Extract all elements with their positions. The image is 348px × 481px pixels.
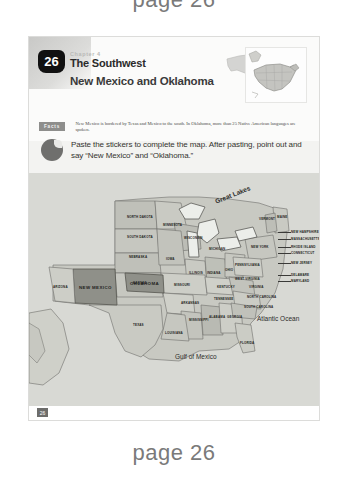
state-label: TENNESSEE: [214, 297, 234, 301]
worksheet-page-card: 26 Chapter 4 The Southwest New Mexico an…: [28, 36, 320, 421]
state-label-leader: NEW JERSEY: [291, 261, 312, 265]
caption-top: page 26: [0, 0, 348, 13]
state-label: NORTH DAKOTA: [127, 215, 153, 219]
state-label: ARIZONA: [53, 285, 68, 289]
state-label: GEORGIA: [227, 315, 242, 319]
state-label: MICHIGAN: [209, 247, 225, 251]
water-label-gulf-of-mexico: Gulf of Mexico: [175, 353, 217, 360]
state-label: INDIANA: [207, 271, 221, 275]
state-label-leader: RHODE ISLAND: [291, 245, 316, 249]
fact-row: Facts New Mexico is bordered by Texas an…: [39, 121, 315, 139]
state-label: FLORIDA: [240, 341, 254, 345]
state-label: MINNESOTA: [163, 223, 182, 227]
state-label: PENNSYLVANIA: [235, 263, 260, 267]
state-label: ILLINOIS: [189, 271, 203, 275]
us-locator-map: [245, 47, 307, 103]
water-label-atlantic-ocean: Atlantic Ocean: [257, 315, 299, 322]
page-title: New Mexico and Oklahoma: [70, 75, 220, 88]
state-label-oklahoma: OKLAHOMA: [130, 281, 159, 286]
state-label: NORTH CAROLINA: [247, 295, 276, 299]
state-label-new-mexico: NEW MEXICO: [79, 285, 112, 290]
sticker-icon: [41, 139, 63, 161]
footer-page-number: 26: [37, 408, 48, 417]
fact-text: New Mexico is bordered by Texas and Mexi…: [75, 121, 303, 133]
state-label: MISSISSIPPI: [189, 318, 209, 322]
state-label: SOUTH DAKOTA: [127, 235, 153, 239]
us-map: Great Lakes Atlantic Ocean Gulf of Mexic…: [29, 173, 320, 406]
state-label-leader: MARYLAND: [291, 279, 309, 283]
chapter-number-badge: 26: [39, 51, 64, 72]
state-label: ALABAMA: [209, 315, 225, 319]
state-label-leader: MASSACHUSETTS: [291, 237, 320, 241]
state-label: TEXAS: [133, 323, 144, 327]
state-label: NEBRASKA: [129, 255, 147, 259]
state-label: SOUTH CAROLINA: [244, 305, 273, 309]
state-label: MAINE: [277, 215, 287, 219]
state-label: WEST VIRGINIA: [235, 277, 260, 281]
chapter-title: The Southwest: [70, 57, 146, 69]
state-label-leader: CONNECTICUT: [291, 251, 314, 255]
state-label: WISCONSIN: [184, 236, 203, 240]
instruction-text: Paste the stickers to complete the map. …: [71, 139, 311, 161]
state-label-leader: NEW HAMPSHIRE: [291, 230, 319, 234]
state-label: NEW YORK: [251, 245, 269, 249]
state-label: IOWA: [166, 257, 175, 261]
state-label: MISSOURI: [174, 283, 190, 287]
state-label: VERMONT: [259, 217, 275, 221]
state-label: KENTUCKY: [217, 285, 235, 289]
state-label: OHIO: [225, 268, 233, 272]
state-label: VIRGINIA: [249, 285, 264, 289]
state-label: ARKANSAS: [181, 301, 199, 305]
worksheet-footer: 26: [29, 406, 320, 421]
state-label: LOUISIANA: [165, 331, 183, 335]
fact-badge: Facts: [39, 122, 65, 131]
state-label-leader: DELAWARE: [291, 273, 309, 277]
caption-bottom: page 26: [0, 440, 348, 466]
